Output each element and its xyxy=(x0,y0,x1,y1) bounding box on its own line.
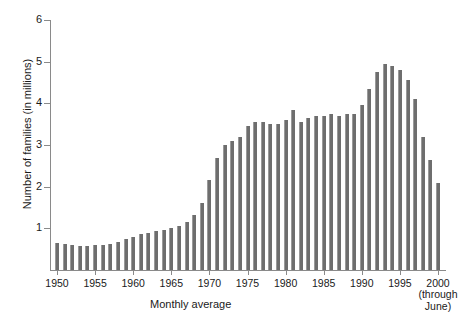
bar xyxy=(93,245,97,270)
bar xyxy=(299,122,303,270)
bar xyxy=(131,237,135,270)
bar xyxy=(421,137,425,270)
bar xyxy=(108,244,112,270)
bar xyxy=(413,99,417,270)
x-tick xyxy=(171,271,172,275)
x-tick xyxy=(286,271,287,275)
bar xyxy=(322,116,326,270)
x-tick-label: 1975 xyxy=(228,277,268,289)
bar xyxy=(124,239,128,270)
x-tick-label: 1970 xyxy=(189,277,229,289)
bar xyxy=(139,234,143,270)
bar xyxy=(261,122,265,270)
bar xyxy=(185,222,189,270)
bar xyxy=(63,244,67,270)
bar xyxy=(253,122,257,270)
bar xyxy=(367,89,371,270)
bar xyxy=(146,233,150,271)
bar xyxy=(162,230,166,270)
bar xyxy=(398,70,402,270)
bar xyxy=(192,215,196,270)
x-tick-label: 1980 xyxy=(266,277,306,289)
x-tick-label: 1995 xyxy=(380,277,420,289)
x-tick xyxy=(362,271,363,275)
bar xyxy=(284,120,288,270)
bars-layer xyxy=(50,20,446,270)
bar xyxy=(291,110,295,270)
bar xyxy=(116,242,120,270)
bar xyxy=(406,80,410,270)
bar xyxy=(345,114,349,270)
bar xyxy=(375,72,379,270)
bar xyxy=(215,158,219,271)
bar xyxy=(383,64,387,270)
x-note-line: June) xyxy=(410,301,466,313)
bar xyxy=(360,105,364,270)
x-tick xyxy=(95,271,96,275)
bar xyxy=(390,66,394,270)
bar xyxy=(306,118,310,270)
x-tick xyxy=(209,271,210,275)
bar xyxy=(314,116,318,270)
x-tick xyxy=(57,271,58,275)
x-tick xyxy=(133,271,134,275)
bar xyxy=(223,145,227,270)
x-tick-label: 1990 xyxy=(342,277,382,289)
bar xyxy=(85,246,89,270)
x-tick-label: 1960 xyxy=(113,277,153,289)
bar xyxy=(101,245,105,270)
bar xyxy=(246,126,250,270)
x-tick-label: 1955 xyxy=(75,277,115,289)
x-tick xyxy=(400,271,401,275)
x-tick xyxy=(438,271,439,275)
bar xyxy=(169,228,173,270)
bar xyxy=(207,180,211,270)
bar xyxy=(154,231,158,270)
bar xyxy=(177,226,181,270)
bar xyxy=(329,114,333,270)
bar xyxy=(78,246,82,270)
bar xyxy=(428,160,432,270)
x-tick xyxy=(324,271,325,275)
x-tick-label: 1950 xyxy=(37,277,77,289)
bar xyxy=(268,124,272,270)
x-tick-label: 1965 xyxy=(151,277,191,289)
bar xyxy=(230,141,234,270)
y-tick-label: 6 xyxy=(28,14,42,25)
bar xyxy=(200,203,204,271)
x-axis-title: Monthly average xyxy=(150,298,231,310)
bar xyxy=(352,114,356,270)
bar xyxy=(238,137,242,270)
welfare-caseload-bar-chart: 123456 Number of families (in millions) … xyxy=(0,0,475,326)
bar xyxy=(276,124,280,270)
bar xyxy=(70,245,74,270)
x-note-line: (through xyxy=(410,289,466,301)
y-axis-title: Number of families (in millions) xyxy=(21,44,33,224)
bar xyxy=(337,116,341,270)
x-tick-label: 1985 xyxy=(304,277,344,289)
x-tick xyxy=(248,271,249,275)
bar xyxy=(55,243,59,270)
bar xyxy=(436,183,440,271)
